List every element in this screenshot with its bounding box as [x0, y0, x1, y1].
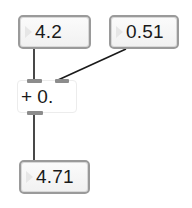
triangle-indicator-icon [26, 171, 33, 183]
number-value: 4.71 [36, 166, 74, 188]
patcher-canvas[interactable]: 4.2 0.51 + 0. 4.71 [0, 0, 192, 208]
number-value: 0.51 [126, 21, 164, 43]
triangle-indicator-icon [25, 26, 32, 38]
cord-num2-to-add-right [58, 49, 126, 80]
number-box-input-left[interactable]: 4.2 [18, 15, 91, 49]
triangle-indicator-icon [116, 26, 123, 38]
number-box-output[interactable]: 4.71 [19, 160, 90, 194]
add-object[interactable]: + 0. [17, 80, 77, 113]
outlet[interactable] [27, 111, 43, 115]
inlet-left[interactable] [27, 79, 42, 83]
inlet-right[interactable] [55, 79, 69, 83]
number-box-input-right[interactable]: 0.51 [109, 15, 179, 49]
object-text: + 0. [21, 86, 53, 108]
number-value: 4.2 [35, 21, 62, 43]
